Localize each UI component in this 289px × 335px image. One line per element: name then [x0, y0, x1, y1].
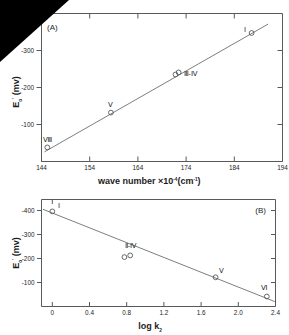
panel-a-point-label-2: Ⅲ-Ⅳ — [184, 70, 198, 77]
panel-b-ylabel-units: (mv) — [11, 237, 21, 256]
panel-b-xticklabel-3: 1.2 — [159, 309, 168, 316]
panel-b-yticks-right — [271, 211, 276, 283]
panel-b-point-i: Ⅰ — [50, 202, 60, 214]
panel-a-point-i: Ⅰ — [244, 26, 254, 36]
panel-a-yaxis-title: Eo' (mv) — [11, 76, 23, 108]
panel-b-datapoints: Ⅰ Ⅱ-Ⅳ Ⅴ Ⅵ — [50, 202, 269, 299]
panel-b-yticklabel-1: -200 — [22, 255, 35, 262]
panel-b: 0 0.4 0.8 1.2 1.6 2.0 2.4 -100 -200 -300… — [11, 200, 280, 333]
panel-b-xticks — [52, 302, 275, 307]
panel-a-xticks-top — [90, 14, 235, 19]
panel-b-ylabel-sub: o — [18, 260, 23, 263]
panel-a-yticks-right — [278, 51, 283, 125]
figure-container: 144 154 164 174 184 194 -100 -200 -300 w… — [0, 0, 289, 335]
panel-a-xticks — [42, 157, 283, 162]
panel-a-xlabel-units: (cm — [177, 176, 193, 186]
panel-a-xticklabel-1: 154 — [84, 164, 95, 171]
panel-a-xlabel-factor: 10 — [163, 176, 173, 186]
panel-a-xticklabel-0: 144 — [36, 164, 47, 171]
panel-a-datapoints: Ⅷ Ⅴ Ⅲ-Ⅳ Ⅰ — [43, 26, 254, 150]
panel-b-xaxis-title: log k2 — [138, 321, 162, 333]
panel-b-point-label-3: Ⅵ — [261, 284, 267, 291]
panel-a: 144 154 164 174 184 194 -100 -200 -300 w… — [0, 0, 288, 186]
panel-a-yticklabel-0: -100 — [21, 121, 34, 128]
panel-b-xticklabel-1: 0.4 — [85, 309, 94, 316]
panel-a-point-vii: Ⅷ — [43, 136, 52, 150]
figure-svg: 144 154 164 174 184 194 -100 -200 -300 w… — [0, 0, 289, 335]
panel-b-point-ii-iv: Ⅱ-Ⅳ — [122, 242, 137, 260]
panel-b-yticks — [37, 211, 42, 283]
panel-a-point-label-1: Ⅴ — [108, 101, 113, 108]
panel-a-ylabel-units: (mv) — [11, 76, 21, 95]
panel-a-xaxis-title: wave number ×10-4(cm-1) — [97, 176, 201, 186]
panel-a-yticklabel-2: -300 — [21, 47, 34, 54]
panel-a-ylabel-sub: o — [18, 99, 23, 102]
panel-a-fit-line — [44, 24, 268, 152]
panel-b-label: (B) — [255, 206, 266, 215]
panel-a-xlabel-text: wave number — [97, 176, 156, 186]
panel-b-xticklabel-6: 2.4 — [271, 309, 280, 316]
panel-a-yticklabel-1: -200 — [21, 84, 34, 91]
scan-artifact-triangle — [0, 0, 69, 62]
panel-a-xlabel-units-close: ) — [198, 176, 201, 186]
svg-text:wave number ×10-4(cm-1): wave number ×10-4(cm-1) — [97, 176, 201, 186]
panel-b-xlabel-sub: 2 — [159, 328, 162, 333]
panel-b-yaxis-title: Eo' (mv) — [11, 237, 23, 269]
panel-b-point-label-0: Ⅰ — [58, 202, 60, 209]
panel-b-yticklabel-0: -100 — [22, 279, 35, 286]
panel-a-xticklabel-4: 184 — [229, 164, 240, 171]
panel-a-point-label-0: Ⅷ — [43, 136, 52, 143]
panel-b-xticklabel-2: 0.8 — [122, 309, 131, 316]
panel-b-fit-line — [43, 209, 275, 301]
panel-a-xticklabel-2: 164 — [133, 164, 144, 171]
panel-a-point-label-3: Ⅰ — [244, 26, 246, 33]
panel-b-xticklabel-5: 2.0 — [234, 309, 243, 316]
panel-b-xlabel-main: log k — [138, 321, 160, 331]
panel-a-xticklabel-3: 174 — [181, 164, 192, 171]
panel-b-point-label-1: Ⅱ-Ⅳ — [125, 242, 137, 249]
panel-b-yticklabel-3: -400 — [22, 207, 35, 214]
panel-a-yticks — [37, 51, 42, 125]
panel-b-yticklabel-2: -300 — [22, 231, 35, 238]
panel-a-label: (A) — [47, 23, 58, 32]
svg-text:Eo' (mv): Eo' (mv) — [11, 237, 23, 269]
panel-b-xticklabel-4: 1.6 — [197, 309, 206, 316]
panel-b-point-label-2: Ⅴ — [219, 267, 224, 274]
panel-b-xticklabel-0: 0 — [51, 309, 55, 316]
panel-a-xticklabel-5: 194 — [277, 164, 288, 171]
svg-text:Eo' (mv): Eo' (mv) — [11, 76, 23, 108]
